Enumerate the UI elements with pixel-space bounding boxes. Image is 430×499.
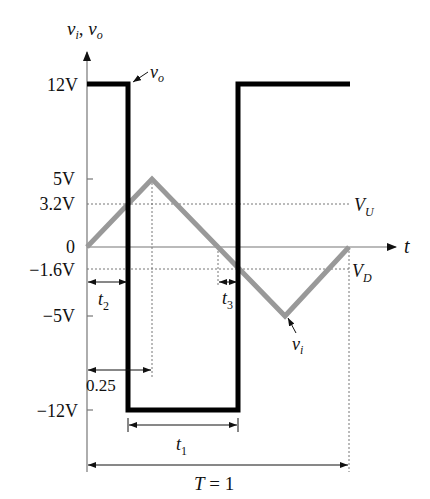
tick-label-neg12v: −12V xyxy=(37,401,78,421)
vi-pointer xyxy=(288,318,296,333)
vo-pointer xyxy=(133,72,148,82)
tick-label-5v: 5V xyxy=(53,169,75,189)
tick-label-0: 0 xyxy=(66,237,75,257)
t1-label: t1 xyxy=(176,434,187,458)
period-label: T = 1 xyxy=(194,473,234,494)
waveform-diagram: vi, vo t 12V 5V 3.2V 0 −1.6V −5V −12V vo… xyxy=(0,0,430,499)
tick-label-12v: 12V xyxy=(47,75,78,95)
tick-label-3-2v: 3.2V xyxy=(40,194,76,214)
vi-label: vi xyxy=(292,334,303,357)
t2-label: t2 xyxy=(98,289,109,313)
tick-label-neg5v: −5V xyxy=(43,306,75,326)
vd-label: VD xyxy=(352,261,372,285)
x-axis-label: t xyxy=(404,235,410,257)
vu-label: VU xyxy=(354,195,375,219)
tick-label-neg1-6v: −1.6V xyxy=(29,260,75,280)
t3-label: t3 xyxy=(222,288,233,312)
vo-label: vo xyxy=(150,62,164,85)
y-axis-label: vi, vo xyxy=(67,18,103,42)
y-tick-labels: 12V 5V 3.2V 0 −1.6V −5V −12V xyxy=(29,75,78,421)
quarter-period-label: 0.25 xyxy=(86,376,116,395)
